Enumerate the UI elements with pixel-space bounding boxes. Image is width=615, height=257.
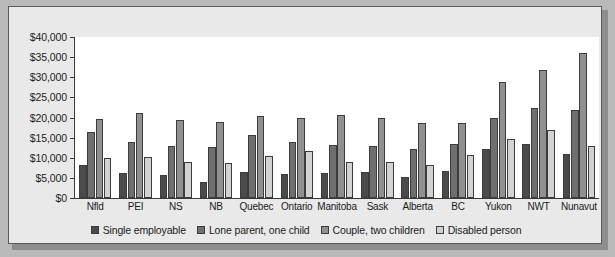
bar[interactable] <box>321 173 329 198</box>
x-axis-label: Alberta <box>398 201 438 212</box>
y-axis-tick-label: $30,000 <box>30 71 67 83</box>
bar[interactable] <box>248 135 256 198</box>
bar[interactable] <box>482 149 490 199</box>
bar[interactable] <box>522 144 530 198</box>
bar-group <box>518 37 558 198</box>
bar[interactable] <box>458 123 466 198</box>
bar[interactable] <box>410 149 418 199</box>
bar[interactable] <box>346 162 354 198</box>
bar-group <box>478 37 518 198</box>
bar[interactable] <box>337 115 345 198</box>
x-axis-label: PEI <box>115 201 155 212</box>
x-axis-label: Ontario <box>277 201 317 212</box>
bar[interactable] <box>490 118 498 198</box>
bar[interactable] <box>240 172 248 198</box>
bar-group <box>196 37 236 198</box>
bar[interactable] <box>579 53 587 198</box>
bar-group <box>317 37 357 198</box>
bar[interactable] <box>225 163 233 198</box>
bar[interactable] <box>499 82 507 198</box>
bar[interactable] <box>200 182 208 198</box>
bar[interactable] <box>289 142 297 198</box>
bar[interactable] <box>418 123 426 198</box>
legend-item[interactable]: Couple, two children <box>321 224 425 236</box>
bar[interactable] <box>378 118 386 198</box>
bar[interactable] <box>386 162 394 198</box>
bar[interactable] <box>281 174 289 198</box>
chart-figure: $40,000$35,000$30,000$25,000$20,000$15,0… <box>0 0 615 257</box>
y-axis-tick-label: $10,000 <box>30 152 67 164</box>
bar[interactable] <box>297 118 305 199</box>
bar-group <box>277 37 317 198</box>
x-axis-label: Quebec <box>236 201 276 212</box>
bar[interactable] <box>426 165 434 198</box>
bar[interactable] <box>305 151 313 198</box>
legend-item[interactable]: Single employable <box>91 224 186 236</box>
bar-group <box>438 37 478 198</box>
x-axis-line <box>74 198 599 199</box>
bar[interactable] <box>369 146 377 198</box>
bar[interactable] <box>208 147 216 198</box>
bar[interactable] <box>216 122 224 198</box>
bar[interactable] <box>176 120 184 198</box>
bar[interactable] <box>79 165 87 198</box>
bar[interactable] <box>507 139 515 198</box>
bar[interactable] <box>257 116 265 198</box>
bar[interactable] <box>361 172 369 198</box>
plot-area: $40,000$35,000$30,000$25,000$20,000$15,0… <box>75 37 599 205</box>
x-axis-label: Nfld <box>75 201 115 212</box>
x-axis-label: NWT <box>518 201 558 212</box>
chart-legend: Single employableLone parent, one childC… <box>9 224 603 236</box>
bar[interactable] <box>168 146 176 198</box>
bar[interactable] <box>442 171 450 198</box>
bar[interactable] <box>128 142 136 198</box>
x-axis-label: Yukon <box>478 201 518 212</box>
y-axis-tick-label: $35,000 <box>30 51 67 63</box>
bar-group <box>357 37 397 198</box>
bar[interactable] <box>136 113 144 198</box>
bar[interactable] <box>87 132 95 198</box>
bar-group <box>559 37 599 198</box>
legend-label: Couple, two children <box>333 224 425 236</box>
bar-group <box>398 37 438 198</box>
x-axis-label: NB <box>196 201 236 212</box>
legend-item[interactable]: Disabled person <box>436 224 522 236</box>
bar[interactable] <box>547 130 555 198</box>
bar[interactable] <box>531 108 539 198</box>
x-axis-label: Sask <box>357 201 397 212</box>
bar[interactable] <box>144 157 152 198</box>
bar-group <box>75 37 115 198</box>
bar[interactable] <box>160 175 168 198</box>
bar-group <box>236 37 276 198</box>
y-axis-tick-label: $20,000 <box>30 112 67 124</box>
x-axis-category-labels: NfldPEINSNBQuebecOntarioManitobaSaskAlbe… <box>75 201 599 212</box>
bar[interactable] <box>571 110 579 198</box>
x-axis-label: BC <box>438 201 478 212</box>
bar[interactable] <box>104 158 112 198</box>
bar[interactable] <box>539 70 547 198</box>
bar[interactable] <box>119 173 127 198</box>
y-axis-tick-label: $40,000 <box>30 31 67 43</box>
bar[interactable] <box>467 155 475 198</box>
legend-label: Single employable <box>103 224 186 236</box>
y-axis-tick <box>70 198 75 199</box>
y-axis-tick-label: $15,000 <box>30 132 67 144</box>
bar[interactable] <box>265 156 273 198</box>
bar-groups <box>75 37 599 198</box>
bar[interactable] <box>329 145 337 198</box>
x-axis-label: Manitoba <box>317 201 357 212</box>
legend-label: Disabled person <box>448 224 522 236</box>
bar[interactable] <box>96 119 104 198</box>
x-axis-label: NS <box>156 201 196 212</box>
chart-frame: $40,000$35,000$30,000$25,000$20,000$15,0… <box>8 6 602 244</box>
legend-item[interactable]: Lone parent, one child <box>197 224 310 236</box>
bar[interactable] <box>450 144 458 198</box>
bar[interactable] <box>588 146 596 198</box>
legend-label: Lone parent, one child <box>209 224 310 236</box>
legend-swatch-icon <box>91 226 99 234</box>
bar[interactable] <box>401 177 409 198</box>
bar[interactable] <box>563 154 571 198</box>
bar[interactable] <box>184 162 192 198</box>
legend-swatch-icon <box>197 226 205 234</box>
y-axis-tick-label: $25,000 <box>30 91 67 103</box>
